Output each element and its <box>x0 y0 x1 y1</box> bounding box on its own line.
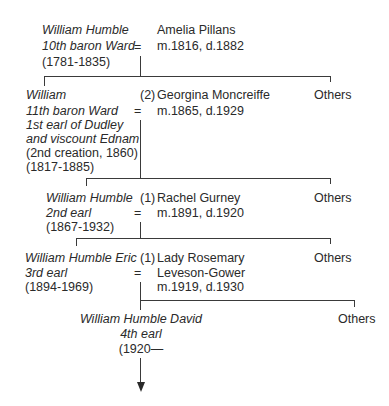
gen2-person-title-2: 1st earl of Dudley <box>26 118 123 132</box>
gen4-descent-line <box>140 282 141 300</box>
gen2-person-title-1: 11th baron Ward <box>26 104 118 118</box>
gen4-sibling-line <box>140 300 355 301</box>
gen3-drop-others <box>330 238 331 244</box>
gen3-marriage-symbol: = <box>134 206 141 220</box>
gen4-drop-heir <box>140 300 141 310</box>
gen1-descent-line <box>140 56 141 76</box>
gen4-others-label: Others <box>338 312 376 326</box>
gen1-drop-others <box>330 76 331 82</box>
gen3-sibling-line <box>76 238 331 239</box>
gen3-spouse-marriage-dates: m.1891, d.1920 <box>157 206 244 220</box>
gen2-spouse-marriage-dates: m.1865, d.1929 <box>157 104 244 118</box>
gen1-person-dates: (1781-1835) <box>42 55 110 69</box>
arrow-down-icon <box>137 382 145 392</box>
gen2-drop-heir <box>86 178 87 186</box>
gen5-person-name: William Humble David <box>60 312 222 326</box>
gen4-person-dates: (1894-1969) <box>25 280 93 294</box>
gen3-person-name: William Humble <box>46 191 133 205</box>
gen4-drop-others <box>354 300 355 307</box>
gen2-person-title-3: and viscount Ednam <box>26 132 139 146</box>
gen3-others-label: Others <box>314 251 352 265</box>
gen2-descent-line <box>140 120 141 178</box>
gen2-person-creation: (2nd creation, 1860) <box>26 146 138 160</box>
gen2-marriage-number: (2) <box>140 88 155 102</box>
gen3-descent-line <box>140 222 141 238</box>
gen1-person-title: 10th baron Ward <box>42 39 135 53</box>
gen3-drop-heir <box>76 238 77 246</box>
gen2-sibling-line <box>86 178 331 179</box>
gen2-drop-others <box>330 178 331 184</box>
gen1-spouse-name: Amelia Pillans <box>157 23 236 37</box>
gen1-spouse-marriage-dates: m.1816, d.1882 <box>157 39 244 53</box>
gen1-person-name: William Humble <box>42 23 129 37</box>
gen2-others-label: Others <box>314 191 352 205</box>
gen4-spouse-name-2: Leveson-Gower <box>157 266 245 280</box>
gen3-person-title: 2nd earl <box>46 206 91 220</box>
gen4-spouse-name-1: Lady Rosemary <box>157 251 245 265</box>
gen1-drop-heir <box>44 76 45 86</box>
gen4-person-title: 3rd earl <box>25 266 67 280</box>
gen2-person-dates: (1817-1885) <box>26 160 94 174</box>
gen3-person-dates: (1867-1932) <box>46 220 114 234</box>
gen1-sibling-line <box>44 76 331 77</box>
gen2-spouse-name: Georgina Moncreiffe <box>157 88 270 102</box>
gen2-person-name: William <box>26 88 66 102</box>
gen4-spouse-marriage-dates: m.1919, d.1930 <box>157 280 244 294</box>
gen5-person-dates: (1920— <box>60 342 222 356</box>
gen1-marriage-symbol: = <box>134 40 141 54</box>
gen3-spouse-name: Rachel Gurney <box>157 191 240 205</box>
gen3-marriage-number: (1) <box>140 191 155 205</box>
gen5-continuation-line <box>140 358 141 383</box>
gen1-others-label: Others <box>314 88 352 102</box>
gen4-person-name: William Humble Eric <box>25 251 137 265</box>
gen2-marriage-symbol: = <box>134 104 141 118</box>
gen5-person-title: 4th earl <box>60 327 222 341</box>
gen4-marriage-number: (1) <box>140 251 155 265</box>
gen4-marriage-symbol: = <box>134 266 141 280</box>
